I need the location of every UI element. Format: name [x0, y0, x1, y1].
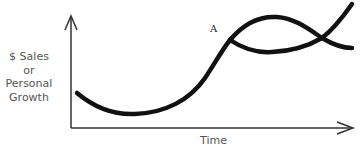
- y-axis-label: $ Sales or Personal Growth: [0, 50, 58, 104]
- point-a-label: A: [210, 23, 217, 34]
- y-axis-label-line: Growth: [0, 91, 58, 105]
- lower-branch-curve: [230, 38, 352, 52]
- main-growth-curve: [77, 40, 230, 114]
- y-axis-label-line: Personal: [0, 77, 58, 91]
- upper-branch-curve: [230, 4, 352, 40]
- y-axis-label-line: or: [0, 64, 58, 78]
- x-axis-label: Time: [200, 134, 227, 147]
- growth-curve-diagram: $ Sales or Personal Growth Time A: [0, 0, 361, 156]
- y-axis-label-line: $ Sales: [0, 50, 58, 64]
